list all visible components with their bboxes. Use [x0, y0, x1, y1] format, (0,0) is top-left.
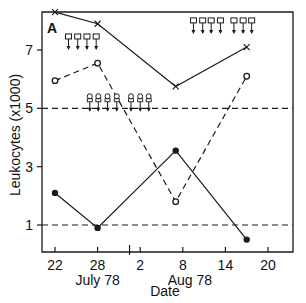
open-circle-marker [52, 78, 58, 84]
series-open-circle [52, 60, 249, 204]
y-tick-label: 1 [25, 217, 33, 233]
filled-circle-marker [173, 147, 179, 153]
panel-label: A [47, 20, 57, 36]
y-axis-title: Leukocytes (x1000) [7, 74, 23, 196]
x-tick-label: 22 [47, 257, 63, 273]
x-marker [244, 44, 250, 50]
circle-symbol-icon [114, 94, 119, 99]
series-line [55, 151, 247, 240]
arrow-down-icon [85, 46, 89, 50]
arrow-down-icon [241, 30, 245, 34]
arrow-down-icon [88, 108, 92, 112]
circle-symbol-icon [87, 94, 92, 99]
y-tick-label: 7 [25, 42, 33, 58]
circle-symbol-icon [96, 94, 101, 99]
month-label: July 78 [75, 272, 120, 288]
square-arrow-group [231, 18, 255, 34]
square-symbol-icon [84, 34, 90, 39]
arrow-down-icon [94, 46, 98, 50]
circle-symbol-base [114, 99, 119, 102]
x-axis-title: Date [150, 283, 180, 299]
x-marker [173, 83, 179, 89]
circle-arrow-group [87, 94, 119, 112]
open-circle-marker [173, 199, 179, 205]
circle-symbol-icon [128, 94, 133, 99]
circle-symbol-icon [105, 94, 110, 99]
square-symbol-icon [200, 18, 206, 23]
circle-symbol-icon [146, 94, 151, 99]
open-circle-marker [244, 73, 250, 79]
arrow-down-icon [96, 108, 100, 112]
x-tick-label: 28 [90, 257, 106, 273]
square-symbol-icon [65, 34, 71, 39]
arrow-down-icon [138, 108, 142, 112]
arrow-down-icon [76, 46, 80, 50]
square-symbol-icon [75, 34, 81, 39]
square-symbol-icon [208, 18, 214, 23]
plot-border [42, 12, 293, 252]
plot-frame [42, 12, 293, 252]
y-axis: 1357 [25, 42, 42, 233]
circle-symbol-base [96, 99, 101, 102]
arrow-down-icon [232, 30, 236, 34]
square-symbol-icon [240, 18, 246, 23]
circle-symbol-base [87, 99, 92, 102]
arrow-down-icon [191, 30, 195, 34]
square-symbol-icon [249, 18, 255, 23]
x-tick-label: 8 [179, 257, 187, 273]
circle-symbol-base [138, 99, 143, 102]
y-tick-label: 3 [25, 159, 33, 175]
circle-symbol-base [146, 99, 151, 102]
open-circle-marker [95, 60, 101, 66]
square-symbol-icon [93, 34, 99, 39]
square-arrow-group [65, 34, 99, 50]
circle-symbol-base [105, 99, 110, 102]
filled-circle-marker [52, 190, 58, 196]
square-symbol-icon [190, 18, 196, 23]
arrow-down-icon [209, 30, 213, 34]
square-symbol-icon [217, 18, 223, 23]
y-tick-label: 5 [25, 100, 33, 116]
circle-arrow-group [128, 94, 151, 112]
leukocyte-chart: 2228281420July 78Aug 78 1357 A Date Leuk… [0, 0, 306, 303]
series-line [55, 63, 247, 202]
arrow-down-icon [106, 108, 110, 112]
square-symbol-icon [231, 18, 237, 23]
filled-circle-marker [244, 236, 250, 242]
arrow-down-icon [201, 30, 205, 34]
filled-circle-marker [94, 225, 100, 231]
x-tick-label: 20 [260, 257, 276, 273]
x-tick-label: 14 [218, 257, 234, 273]
reference-lines [42, 108, 293, 225]
arrow-down-icon [115, 108, 119, 112]
arrow-down-icon [147, 108, 151, 112]
arrow-down-icon [250, 30, 254, 34]
circle-symbol-base [128, 99, 133, 102]
series-filled-circle [52, 147, 250, 242]
circle-symbol-icon [138, 94, 143, 99]
square-arrow-group [190, 18, 223, 34]
arrow-down-icon [218, 30, 222, 34]
series-layer [52, 9, 250, 243]
arrow-down-icon [66, 46, 70, 50]
x-tick-label: 2 [136, 257, 144, 273]
arrow-down-icon [129, 108, 133, 112]
